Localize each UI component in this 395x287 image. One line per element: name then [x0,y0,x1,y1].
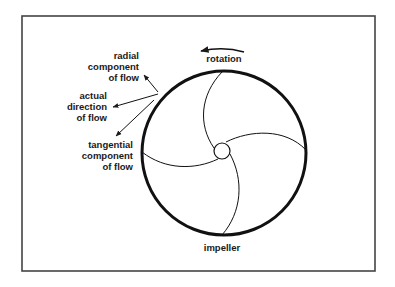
blade-right [226,133,306,150]
impeller-label: impeller [204,242,241,253]
rotation-arrow [201,49,244,52]
svg-text:component: component [82,150,134,161]
tangential-component-label: tangential component of flow [82,139,134,172]
blade-top [204,72,222,148]
impeller-hub [214,143,230,159]
blade-bottom [222,154,239,235]
actual-direction-arrow [113,94,158,107]
radial-component-label: radial component of flow [88,50,140,83]
rotation-label: rotation [206,53,242,64]
radial-arrow [144,75,158,92]
actual-direction-label: actual direction of flow [67,90,108,123]
figure-frame [22,16,375,271]
svg-text:radial: radial [114,50,139,61]
svg-text:of flow: of flow [108,72,139,83]
svg-text:component: component [88,61,140,72]
svg-text:of flow: of flow [102,161,133,172]
impeller-diagram: rotation radial component of flow actual… [0,0,395,287]
svg-text:tangential: tangential [88,139,133,150]
svg-text:actual: actual [80,90,107,101]
svg-text:of flow: of flow [76,112,107,123]
svg-text:direction: direction [67,101,107,112]
blade-left [142,152,218,167]
